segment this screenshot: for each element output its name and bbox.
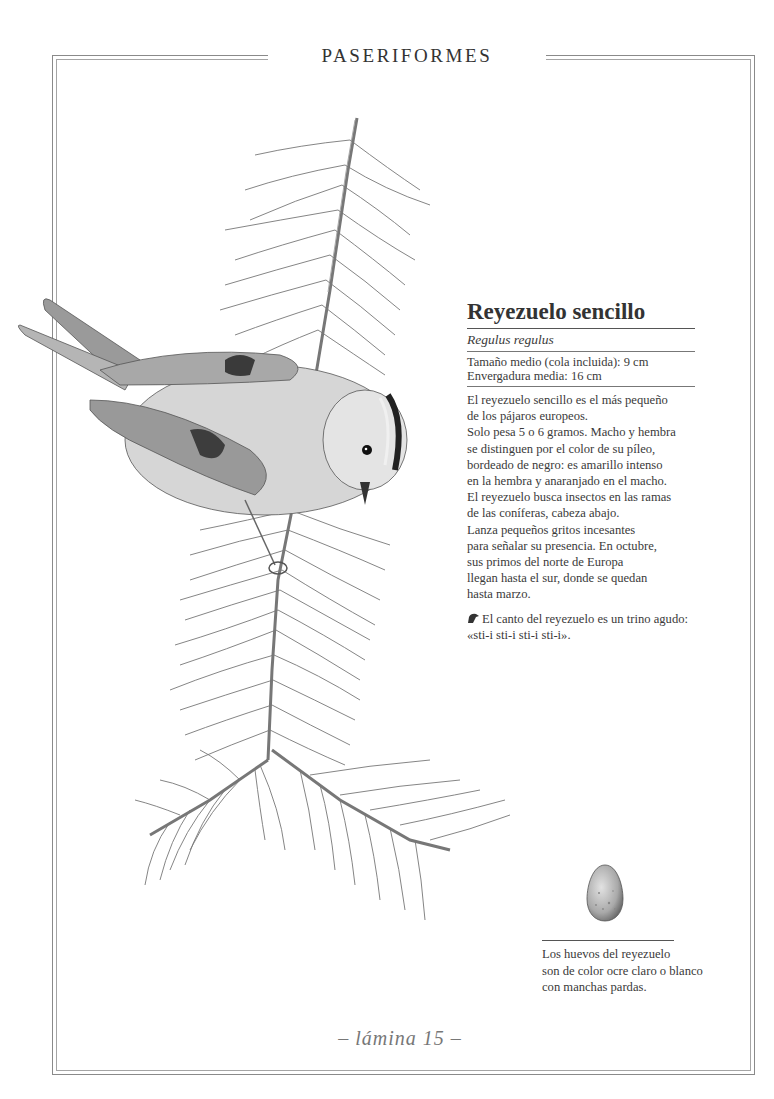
species-common-name: Reyezuelo sencillo	[467, 298, 695, 329]
song-line: El canto del reyezuelo es un trino agudo…	[482, 612, 688, 626]
description-line: se distinguen por el color de su píleo,	[467, 441, 695, 457]
conifer-branch-icon	[135, 118, 510, 920]
species-scientific-name: Regulus regulus	[467, 329, 695, 352]
measurement-wingspan: Envergadura media: 16 cm	[467, 369, 695, 383]
egg-caption-line: son de color ocre claro o blanco	[542, 963, 762, 980]
egg-caption: Los huevos del reyezuelo son de color oc…	[542, 946, 762, 996]
goldcrest-bird-icon	[18, 299, 407, 574]
description-line: para señalar su presencia. En octubre,	[467, 538, 695, 554]
measurement-size: Tamaño medio (cola incluida): 9 cm	[467, 355, 695, 369]
description-line: bordeado de negro: es amarillo intenso	[467, 457, 695, 473]
song-line: «sti-i sti-i sti-i sti-i».	[467, 627, 695, 643]
egg-icon	[585, 863, 625, 923]
section-title: PASERIFORMES	[268, 44, 546, 68]
description-line: en la hembra y anaranjado en el macho.	[467, 473, 695, 489]
description-line: Lanza pequeños gritos incesantes	[467, 522, 695, 538]
description-line: llegan hasta el sur, donde se quedan	[467, 570, 695, 586]
description-line: El reyezuelo sencillo es el más pequeño	[467, 392, 695, 408]
egg-caption-rule	[542, 940, 674, 941]
description-line: de las coníferas, cabeza abajo.	[467, 505, 695, 521]
description-line: hasta marzo.	[467, 586, 695, 602]
description-line: Solo pesa 5 o 6 gramos. Macho y hembra	[467, 424, 695, 440]
egg-caption-line: Los huevos del reyezuelo	[542, 946, 762, 963]
goldcrest-illustration	[10, 110, 520, 940]
egg-caption-line: con manchas pardas.	[542, 979, 762, 996]
species-description: El reyezuelo sencillo es el más pequeño …	[467, 392, 695, 603]
bird-head-icon	[467, 613, 480, 624]
song-note: El canto del reyezuelo es un trino agudo…	[467, 611, 695, 643]
species-info: Reyezuelo sencillo Regulus regulus Tamañ…	[467, 298, 695, 643]
description-line: El reyezuelo busca insectos en las ramas	[467, 489, 695, 505]
plate-number: – lámina 15 –	[300, 1027, 500, 1050]
description-line: de los pájaros europeos.	[467, 408, 695, 424]
description-line: sus primos del norte de Europa	[467, 554, 695, 570]
measurements: Tamaño medio (cola incluida): 9 cm Enver…	[467, 352, 695, 387]
